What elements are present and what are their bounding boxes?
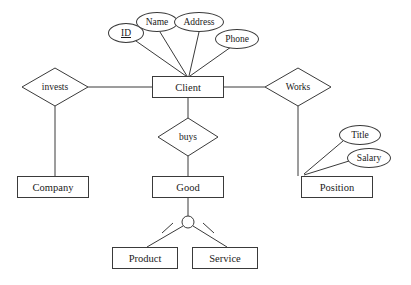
attribute-phone[interactable]: Phone [215, 29, 259, 49]
entity-client-label: Client [175, 82, 201, 93]
entity-company-label: Company [33, 182, 74, 193]
link-address-client [189, 32, 199, 76]
attribute-name-label: Name [146, 17, 169, 27]
er-diagram-canvas: invests Works buys Client Company Good P… [0, 0, 411, 285]
attribute-id-label: ID [121, 28, 131, 38]
link-name-client [160, 32, 187, 76]
entity-service[interactable]: Service [192, 247, 258, 269]
entity-good-label: Good [176, 182, 199, 193]
relationship-diamond-invests [22, 68, 88, 106]
relationship-diamond-works [265, 68, 331, 106]
entity-position[interactable]: Position [301, 176, 373, 198]
disjoint-mark-left [162, 223, 173, 233]
entity-product[interactable]: Product [112, 247, 178, 269]
attribute-salary-label: Salary [357, 153, 381, 163]
disjoint-mark-right [203, 223, 214, 233]
attribute-name[interactable]: Name [136, 12, 178, 32]
attribute-salary[interactable]: Salary [347, 148, 391, 168]
attribute-phone-label: Phone [225, 34, 249, 44]
specialization-circle-icon [182, 216, 194, 228]
attribute-title[interactable]: Title [339, 125, 381, 145]
entity-company[interactable]: Company [17, 176, 89, 198]
attribute-address[interactable]: Address [174, 12, 224, 32]
link-isa-product [147, 226, 183, 247]
link-phone-client [190, 47, 231, 76]
entity-service-label: Service [209, 253, 241, 264]
link-id-client [136, 41, 186, 76]
attribute-title-label: Title [351, 130, 369, 140]
entity-position-label: Position [320, 182, 354, 193]
relationship-diamond-buys [158, 118, 218, 156]
entity-good[interactable]: Good [152, 176, 224, 198]
attribute-address-label: Address [183, 17, 214, 27]
entity-product-label: Product [129, 253, 162, 264]
entity-client[interactable]: Client [152, 76, 224, 98]
